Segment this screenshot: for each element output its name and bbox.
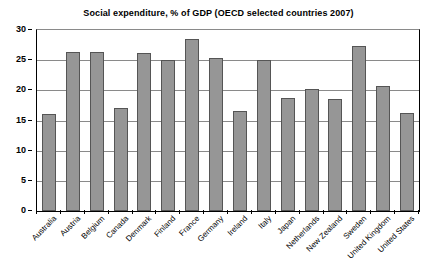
y-axis-tick-mark xyxy=(28,120,32,121)
bar[interactable] xyxy=(42,114,56,211)
bar[interactable] xyxy=(161,60,175,211)
bar-slot xyxy=(228,30,252,211)
x-axis-tick-label: Belgium xyxy=(79,214,106,241)
y-axis-tick-mark xyxy=(28,210,32,211)
y-axis-tick-label: 5 xyxy=(21,175,26,185)
chart-title: Social expenditure, % of GDP (OECD selec… xyxy=(0,8,437,18)
y-axis-tick-label: 25 xyxy=(16,54,26,64)
x-axis-tick-label: Australia xyxy=(30,214,58,242)
bar[interactable] xyxy=(66,52,80,211)
plot-area xyxy=(36,29,420,212)
x-axis-tick-label: Finland xyxy=(153,214,178,239)
y-axis-tick-label: 30 xyxy=(16,24,26,34)
bar-slot xyxy=(85,30,109,211)
bar-slot xyxy=(204,30,228,211)
bar-slot xyxy=(252,30,276,211)
bar-slot xyxy=(371,30,395,211)
x-axis-tick-label-text: Japan xyxy=(275,214,297,236)
y-axis-tick-mark xyxy=(28,180,32,181)
x-axis-tick-label: Italy xyxy=(256,214,273,231)
y-axis-tick-mark xyxy=(28,150,32,151)
y-axis-tick-mark xyxy=(28,89,32,90)
bar[interactable] xyxy=(328,99,342,211)
bar[interactable] xyxy=(90,52,104,211)
bar-slot xyxy=(395,30,419,211)
bar-slot xyxy=(156,30,180,211)
bar-slot xyxy=(109,30,133,211)
bar-slot xyxy=(37,30,61,211)
bar[interactable] xyxy=(376,86,390,211)
x-axis-tick-label-text: Finland xyxy=(153,214,178,239)
bar-slot xyxy=(324,30,348,211)
y-axis-tick-label: 10 xyxy=(16,145,26,155)
x-axis-tick-label-text: Ireland xyxy=(226,214,250,238)
x-axis: AustraliaAustriaBelgiumCanadaDenmarkFinl… xyxy=(36,212,418,274)
bar[interactable] xyxy=(305,89,319,211)
x-axis-tick-label-text: Belgium xyxy=(79,214,106,241)
bar[interactable] xyxy=(209,58,223,211)
bar[interactable] xyxy=(352,46,366,211)
y-axis: 051015202530 xyxy=(0,29,32,210)
bar[interactable] xyxy=(137,53,151,211)
bar[interactable] xyxy=(281,98,295,211)
bar[interactable] xyxy=(257,60,271,211)
x-axis-tick-label-text: Australia xyxy=(30,214,58,242)
bar[interactable] xyxy=(400,113,414,211)
x-axis-tick-label: Ireland xyxy=(226,214,250,238)
bars-layer xyxy=(37,30,419,211)
y-axis-tick-label: 0 xyxy=(21,205,26,215)
bar-slot xyxy=(133,30,157,211)
x-axis-tick-mark xyxy=(418,210,419,214)
bar[interactable] xyxy=(114,108,128,211)
bar-slot xyxy=(300,30,324,211)
y-axis-tick-mark xyxy=(28,29,32,30)
y-axis-tick-label: 20 xyxy=(16,84,26,94)
bar-slot xyxy=(180,30,204,211)
bar-slot xyxy=(347,30,371,211)
y-axis-tick-label: 15 xyxy=(16,115,26,125)
bar-slot xyxy=(276,30,300,211)
bar-slot xyxy=(61,30,85,211)
bar-chart-figure: Social expenditure, % of GDP (OECD selec… xyxy=(0,0,437,276)
y-axis-tick-mark xyxy=(28,59,32,60)
bar[interactable] xyxy=(185,39,199,211)
x-axis-tick-label: Japan xyxy=(275,214,297,236)
x-axis-tick-label-text: Italy xyxy=(256,214,273,231)
bar[interactable] xyxy=(233,111,247,211)
